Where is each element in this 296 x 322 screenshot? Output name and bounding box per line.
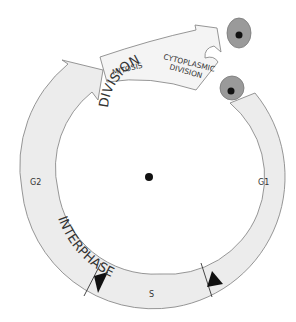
cell-cycle-svg: MITOSIS CYTOPLASMIC DIVISION DIVISION IN… (0, 0, 296, 322)
interphase-band (20, 60, 285, 309)
center-dot-icon (145, 173, 153, 181)
g2-label: G2 (30, 178, 41, 187)
cell-cycle-diagram: MITOSIS CYTOPLASMIC DIVISION DIVISION IN… (0, 0, 296, 322)
daughter-cell-icon (227, 18, 251, 48)
s-label: S (149, 290, 154, 299)
g1-label: G1 (258, 178, 269, 187)
daughter-cell-icon (220, 76, 244, 100)
